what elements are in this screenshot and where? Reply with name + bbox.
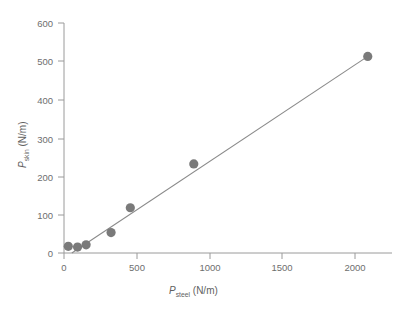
y-tick-label-600: 600 xyxy=(37,18,53,29)
x-axis-title-units: (N/m) xyxy=(190,285,218,296)
y-tick-label-0: 0 xyxy=(48,248,53,259)
x-tick-label-500: 500 xyxy=(129,262,145,273)
data-point xyxy=(363,52,372,61)
y-tick-label-200: 200 xyxy=(37,172,53,183)
data-point xyxy=(82,240,91,249)
y-tick-label-400: 400 xyxy=(37,95,53,106)
data-point xyxy=(189,159,198,168)
x-tick-label-2000: 2000 xyxy=(344,262,365,273)
data-point xyxy=(126,203,135,212)
x-tick-label-1000: 1000 xyxy=(199,262,220,273)
y-axis-title-units: (N/m) xyxy=(17,121,28,149)
data-point xyxy=(106,228,115,237)
y-tick-label-100: 100 xyxy=(37,210,53,221)
data-point xyxy=(64,242,73,251)
y-tick-label-500: 500 xyxy=(37,56,53,67)
scatter-plot-svg: 600 500 400 300 200 100 0 0 500 1000 150… xyxy=(0,0,414,310)
x-tick-label-0: 0 xyxy=(61,262,66,273)
chart-figure: 600 500 400 300 200 100 0 0 500 1000 150… xyxy=(0,0,414,310)
x-tick-label-1500: 1500 xyxy=(271,262,292,273)
y-axis-title-subscript: skin xyxy=(23,149,30,161)
x-axis-title-subscript: steel xyxy=(176,291,191,298)
data-point xyxy=(73,242,82,251)
y-tick-label-300: 300 xyxy=(37,134,53,145)
